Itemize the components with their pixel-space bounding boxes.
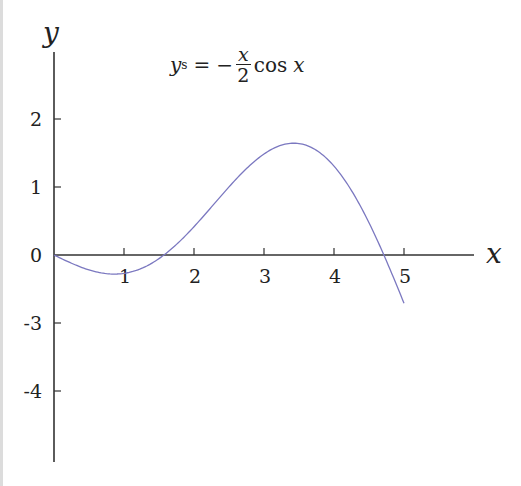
y-tick-label: 1 [30, 176, 42, 198]
x-tick-label: 4 [329, 265, 341, 287]
fraction-denominator: 2 [237, 65, 249, 85]
y-tick-label: -3 [23, 312, 42, 334]
x-tick-label: 1 [119, 265, 131, 287]
x-axis-label: x [486, 237, 502, 270]
x-tick-label: 2 [189, 265, 201, 287]
formula-equals: = [193, 53, 210, 77]
curve-ys [54, 143, 404, 303]
y-tick-label: 2 [30, 108, 42, 130]
y-tick-label: 0 [30, 244, 42, 266]
formula-minus: − [216, 53, 233, 77]
x-tick-label: 5 [399, 265, 411, 287]
formula-subscript: s [181, 58, 187, 72]
formula-lhs: y [170, 53, 181, 77]
formula-label: ys = − x 2 cos x [170, 44, 305, 85]
x-tick-label: 3 [259, 265, 271, 287]
y-axis-label: y [41, 16, 60, 49]
formula-arg: x [293, 53, 304, 77]
fraction-numerator: x [236, 44, 251, 65]
x-ticks: 12345 [119, 248, 411, 287]
formula-func: cos [254, 53, 288, 77]
y-tick-label: -4 [23, 380, 42, 402]
formula-fraction: x 2 [236, 44, 251, 85]
